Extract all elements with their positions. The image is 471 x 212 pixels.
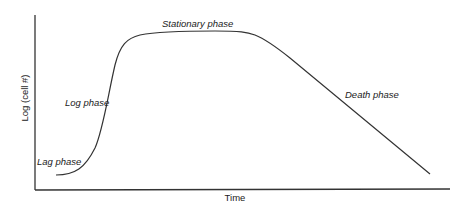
y-axis-label: Log (cell #)	[19, 75, 30, 122]
growth-curve	[56, 31, 430, 175]
log-phase-label: Log phase	[65, 97, 109, 108]
stationary-phase-label: Stationary phase	[162, 18, 233, 29]
x-axis-label: Time	[225, 192, 246, 203]
growth-curve-chart: Lag phase Log phase Stationary phase Dea…	[0, 0, 471, 212]
lag-phase-label: Lag phase	[37, 156, 81, 167]
death-phase-label: Death phase	[345, 89, 399, 100]
x-axis	[35, 189, 450, 190]
